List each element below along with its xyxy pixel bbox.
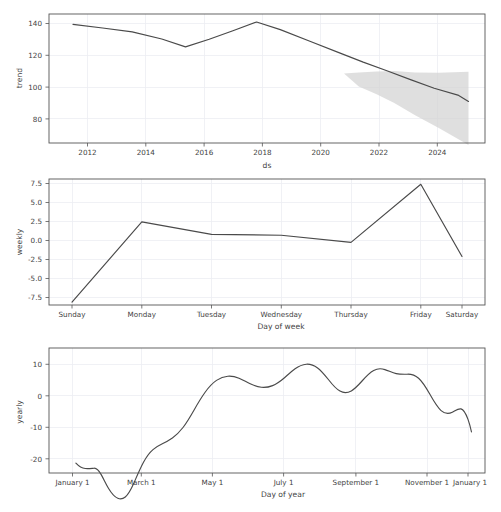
weekly-gridlines (49, 179, 485, 305)
weekly-xtick-saturday: Saturday (446, 310, 479, 319)
weekly-ytick--2.5: -2.5 (28, 255, 42, 264)
yearly-plot: 10 0 -10 -20 January 1 March 1 May 1 Jul… (0, 340, 501, 512)
prophet-components-figure: 140 120 100 80 2012 2014 2016 2018 2020 … (0, 0, 501, 512)
trend-plot: 140 120 100 80 2012 2014 2016 2018 2020 … (0, 0, 501, 175)
trend-uncertainty-band (344, 71, 469, 145)
yearly-xtick-sep1: September 1 (333, 478, 380, 487)
trend-x-axis: 2012 2014 2016 2018 2020 2022 2024 (78, 143, 447, 157)
trend-xlabel: ds (263, 161, 272, 170)
yearly-ytick-0: 0 (37, 392, 42, 401)
weekly-ytick-0.0: 0.0 (31, 236, 43, 245)
yearly-ytick--10: -10 (30, 423, 42, 432)
trend-ylabel: trend (15, 68, 24, 88)
weekly-xtick-wednesday: Wednesday (260, 310, 302, 319)
weekly-line (72, 184, 462, 302)
yearly-ylabel: yearly (15, 400, 24, 424)
trend-xtick-2024: 2024 (428, 148, 447, 157)
yearly-xlabel: Day of year (261, 490, 306, 499)
weekly-ytick-5.0: 5.0 (31, 198, 43, 207)
yearly-gridlines (49, 348, 485, 473)
weekly-ytick--7.5: -7.5 (28, 293, 42, 302)
weekly-ytick-2.5: 2.5 (31, 217, 42, 226)
weekly-ytick--5.0: -5.0 (28, 274, 42, 283)
yearly-xtick-jan1-start: January 1 (54, 478, 89, 487)
weekly-plot: 7.5 5.0 2.5 0.0 -2.5 -5.0 -7.5 Sunday Mo… (0, 175, 501, 340)
trend-ytick-120: 120 (28, 51, 42, 60)
trend-xtick-2020: 2020 (312, 148, 331, 157)
yearly-xtick-nov1: November 1 (405, 478, 449, 487)
yearly-xtick-jan1-end: January 1 (452, 478, 487, 487)
trend-ytick-80: 80 (33, 115, 43, 124)
yearly-xtick-may1: May 1 (202, 478, 224, 487)
trend-xtick-2018: 2018 (253, 148, 272, 157)
weekly-x-axis: Sunday Monday Tuesday Wednesday Thursday… (59, 305, 479, 319)
trend-xtick-2016: 2016 (195, 148, 214, 157)
trend-xtick-2022: 2022 (370, 148, 388, 157)
weekly-xtick-friday: Friday (410, 310, 433, 319)
weekly-xtick-thursday: Thursday (333, 310, 368, 319)
trend-ytick-100: 100 (28, 83, 42, 92)
yearly-panel: 10 0 -10 -20 January 1 March 1 May 1 Jul… (0, 340, 501, 512)
trend-y-axis: 140 120 100 80 (28, 19, 49, 123)
weekly-ytick-7.5: 7.5 (31, 179, 42, 188)
weekly-axes-frame (49, 179, 485, 305)
trend-panel: 140 120 100 80 2012 2014 2016 2018 2020 … (0, 0, 501, 175)
trend-ytick-140: 140 (28, 19, 42, 28)
weekly-panel: 7.5 5.0 2.5 0.0 -2.5 -5.0 -7.5 Sunday Mo… (0, 175, 501, 340)
yearly-x-axis: January 1 March 1 May 1 July 1 September… (54, 473, 487, 487)
trend-xtick-2014: 2014 (137, 148, 156, 157)
trend-xtick-2012: 2012 (78, 148, 96, 157)
weekly-xtick-tuesday: Tuesday (196, 310, 227, 319)
weekly-xtick-monday: Monday (128, 310, 157, 319)
yearly-ytick--20: -20 (30, 455, 42, 464)
weekly-xtick-sunday: Sunday (59, 310, 87, 319)
yearly-y-axis: 10 0 -10 -20 (30, 360, 49, 464)
yearly-xtick-mar1: March 1 (127, 478, 156, 487)
weekly-ylabel: weekly (15, 228, 24, 255)
yearly-ytick-10: 10 (33, 360, 43, 369)
yearly-xtick-jul1: July 1 (273, 478, 294, 487)
weekly-y-axis: 7.5 5.0 2.5 0.0 -2.5 -5.0 -7.5 (28, 179, 49, 302)
yearly-axes-frame (49, 348, 485, 473)
weekly-xlabel: Day of week (257, 322, 305, 331)
